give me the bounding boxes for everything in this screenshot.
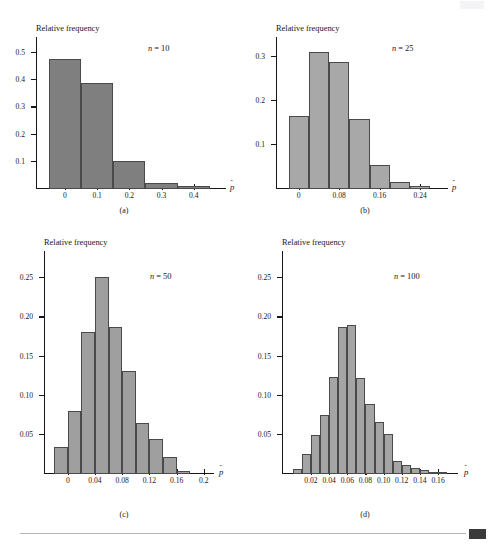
y-tick-d-2: 0.15 (277, 356, 283, 357)
x-tick-label-d-5: 0.12 (395, 476, 408, 485)
y-tick-d-0: 0.05 (277, 434, 283, 435)
histogram-panel-c: Relative frequency n = 50 0.050.100.150.… (8, 238, 240, 528)
histogram-bar (145, 183, 177, 189)
histogram-bar (375, 422, 384, 474)
x-tick-label-d-4: 0.10 (377, 476, 390, 485)
y-tick-c-2: 0.15 (39, 356, 45, 357)
y-tick-label-a-0: 0.1 (16, 156, 26, 165)
x-tick-label-b-1: 0.08 (333, 191, 346, 200)
y-axis-title-b: Relative frequency (276, 24, 339, 33)
histogram-bar (329, 377, 338, 474)
x-axis-symbol-c: pˆ (219, 467, 223, 477)
y-tick-label-b-1: 0.2 (256, 95, 266, 104)
y-tick-label-a-3: 0.4 (16, 75, 26, 84)
x-tick-label-a-2: 0.2 (125, 191, 135, 200)
x-axis-symbol-a: pˆ (230, 182, 234, 192)
x-tick-label-d-6: 0.14 (413, 476, 426, 485)
y-tick-a-0: 0.1 (31, 161, 37, 162)
y-tick-c-4: 0.25 (39, 277, 45, 278)
histogram-bar (309, 52, 329, 189)
footer-page-marker (469, 529, 486, 539)
y-tick-label-a-2: 0.3 (16, 102, 26, 111)
histogram-bar (390, 182, 410, 189)
y-tick-label-d-1: 0.10 (258, 390, 271, 399)
y-tick-d-3: 0.20 (277, 316, 283, 317)
histogram-bar (320, 415, 329, 474)
y-tick-label-c-0: 0.05 (20, 429, 33, 438)
y-tick-label-d-0: 0.05 (258, 429, 271, 438)
x-tick-label-d-3: 0.08 (359, 476, 372, 485)
histogram-bar (329, 62, 349, 189)
histogram-bar (302, 454, 311, 474)
histogram-bar (113, 161, 145, 190)
x-tick-label-a-3: 0.3 (157, 191, 167, 200)
histogram-bar (338, 327, 347, 474)
x-tick-label-c-1: 0.04 (88, 476, 101, 485)
y-axis-line-a (36, 37, 37, 189)
x-tick-label-d-0: 0.02 (304, 476, 317, 485)
histogram-bar (289, 116, 309, 189)
y-tick-d-1: 0.10 (277, 395, 283, 396)
histogram-bar (49, 59, 81, 189)
x-tick-label-b-2: 0.16 (373, 191, 386, 200)
y-tick-c-0: 0.05 (39, 434, 45, 435)
y-tick-label-b-0: 0.1 (256, 139, 266, 148)
histogram-bar (410, 186, 430, 189)
histogram-bar (81, 83, 113, 189)
y-tick-label-b-2: 0.3 (256, 51, 266, 60)
histogram-panel-d: Relative frequency n = 100 0.050.100.150… (246, 238, 484, 528)
y-tick-c-1: 0.10 (39, 395, 45, 396)
x-tick-label-c-0: 0 (66, 476, 70, 485)
histogram-bar (109, 327, 123, 474)
corner-tab (460, 1, 484, 9)
histogram-bar (311, 435, 320, 474)
y-axis-title-a: Relative frequency (36, 24, 99, 33)
x-axis-symbol-b: pˆ (452, 182, 456, 192)
plot-area-b: 0.10.20.300.080.160.24 (276, 37, 448, 189)
histogram-bar (122, 371, 136, 474)
x-tick-label-d-7: 0.16 (431, 476, 444, 485)
panel-caption-b: (b) (246, 206, 484, 215)
x-tick-label-a-0: 0 (63, 191, 67, 200)
y-tick-b-2: 0.3 (271, 56, 277, 57)
histogram-bar (438, 472, 447, 474)
x-tick-label-d-1: 0.04 (323, 476, 336, 485)
y-tick-c-3: 0.20 (39, 316, 45, 317)
histogram-bar (177, 471, 191, 474)
plot-area-a: 0.10.20.30.40.500.10.20.30.4 (36, 37, 226, 189)
y-axis-line-d (282, 251, 283, 474)
histogram-bar (163, 457, 177, 474)
plot-area-d: 0.050.100.150.200.250.020.040.060.080.10… (282, 251, 458, 474)
histogram-bar (349, 119, 369, 189)
x-tick-c-5: 0.2 (204, 469, 205, 475)
y-tick-a-1: 0.2 (31, 134, 37, 135)
panel-caption-c: (c) (8, 510, 240, 519)
y-tick-label-a-4: 0.5 (16, 48, 26, 57)
histogram-bar (95, 277, 109, 474)
y-tick-a-2: 0.3 (31, 106, 37, 107)
x-tick-label-a-1: 0.1 (92, 191, 102, 200)
x-tick-label-b-3: 0.24 (414, 191, 427, 200)
y-tick-label-d-3: 0.20 (258, 312, 271, 321)
y-axis-line-c (44, 251, 45, 474)
x-tick-label-c-2: 0.08 (116, 476, 129, 485)
y-tick-d-4: 0.25 (277, 277, 283, 278)
histogram-bar (149, 439, 163, 474)
y-axis-line-b (276, 37, 277, 189)
x-tick-label-b-0: 0 (297, 191, 301, 200)
y-tick-a-4: 0.5 (31, 52, 37, 53)
histogram-panel-a: Relative frequency n = 10 0.10.20.30.40.… (8, 24, 240, 220)
histogram-bar (370, 165, 390, 189)
histogram-bar (384, 434, 393, 474)
histogram-bar (365, 404, 374, 474)
x-tick-label-c-5: 0.2 (199, 476, 209, 485)
histogram-bar (136, 423, 150, 474)
y-tick-label-c-1: 0.10 (20, 390, 33, 399)
histogram-bar (178, 186, 210, 189)
histogram-bar (411, 468, 420, 474)
y-tick-label-d-4: 0.25 (258, 273, 271, 282)
y-axis-title-d: Relative frequency (282, 238, 345, 247)
histogram-bar (68, 411, 82, 474)
y-tick-label-c-3: 0.20 (20, 312, 33, 321)
histogram-bar (293, 469, 302, 474)
